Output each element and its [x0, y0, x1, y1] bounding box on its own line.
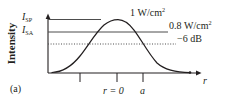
x-axis-label: r [203, 76, 207, 86]
ann1-number: 1 [130, 7, 135, 18]
ann1-exponent: 2 [162, 6, 165, 13]
y-axis-label: Intensity [6, 16, 17, 72]
panel-label: (a) [10, 84, 21, 94]
y-tick-label-isp: ISP [22, 12, 32, 22]
annotation-isp-value: 1 W/cm2 [130, 8, 165, 18]
figure-panel-a: Intensity ISP ISA 1 W/cm2 0.8 W/cm2 −6 d… [0, 0, 231, 110]
y-tick-label-isa: ISA [22, 25, 33, 35]
ann2-exponent: 2 [208, 19, 211, 26]
curve-end-dot-right [189, 71, 192, 74]
x-tick-label-a: a [140, 86, 145, 96]
annotation-minus6db: −6 dB [177, 34, 202, 44]
ann1-unit: W/cm [138, 7, 162, 18]
x-axis-ticks [80, 73, 143, 82]
isp-subscript: SP [25, 16, 32, 23]
x-tick-label-origin: r = 0 [103, 86, 124, 96]
annotation-isa-value: 0.8 W/cm2 [169, 21, 212, 31]
x-tick-origin-text: r = 0 [103, 85, 124, 96]
isa-subscript: SA [25, 29, 33, 36]
y-axis [46, 14, 51, 74]
ann2-number: 0.8 [169, 20, 182, 31]
ann2-unit: W/cm [184, 20, 208, 31]
